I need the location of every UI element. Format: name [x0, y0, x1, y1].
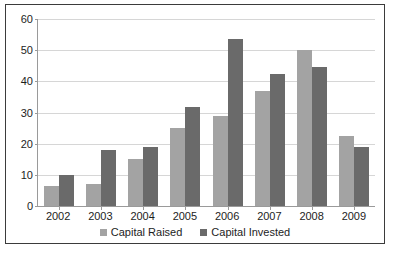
y-axis-tick-mark — [35, 206, 38, 207]
legend-swatch-icon — [200, 229, 207, 236]
bar-group — [80, 19, 122, 206]
legend-label: Capital Invested — [211, 227, 290, 238]
bar-group — [164, 19, 206, 206]
bar-group — [38, 19, 80, 206]
x-axis-tick-label: 2006 — [206, 211, 248, 222]
chart-legend: Capital RaisedCapital Invested — [6, 227, 384, 238]
chart-figure: 0102030405060 20022003200420052006200720… — [5, 4, 385, 244]
x-axis-tick-label: 2003 — [79, 211, 121, 222]
x-axis-tick-label: 2007 — [248, 211, 290, 222]
bar — [270, 74, 285, 206]
legend-swatch-icon — [100, 229, 107, 236]
x-axis-labels: 20022003200420052006200720082009 — [37, 211, 375, 222]
bar — [213, 116, 228, 206]
bar — [339, 136, 354, 206]
x-axis-tick-label: 2005 — [164, 211, 206, 222]
y-axis-tick-label: 30 — [21, 107, 33, 118]
bar-group — [207, 19, 249, 206]
x-axis-tick-label: 2009 — [333, 211, 375, 222]
bar — [185, 107, 200, 206]
y-axis-tick-label: 20 — [21, 138, 33, 149]
bar — [128, 159, 143, 206]
y-axis-tick-label: 40 — [21, 76, 33, 87]
y-axis-tick-label: 60 — [21, 14, 33, 25]
legend-label: Capital Raised — [111, 227, 183, 238]
bar-group — [291, 19, 333, 206]
bar-group — [122, 19, 164, 206]
bar — [255, 91, 270, 206]
x-axis-tick-label: 2008 — [291, 211, 333, 222]
bars-layer — [38, 19, 375, 206]
y-axis-tick-label: 10 — [21, 169, 33, 180]
legend-item: Capital Invested — [200, 227, 290, 238]
legend-item: Capital Raised — [100, 227, 183, 238]
bar — [86, 184, 101, 206]
y-axis-tick-label: 0 — [27, 201, 33, 212]
x-axis-tick-label: 2002 — [37, 211, 79, 222]
plot-area: 0102030405060 — [37, 19, 375, 207]
bar-group — [333, 19, 375, 206]
bar — [143, 147, 158, 206]
bar — [354, 147, 369, 206]
bar — [101, 150, 116, 206]
bar — [170, 128, 185, 206]
bar — [228, 39, 243, 206]
x-axis-tick-label: 2004 — [122, 211, 164, 222]
bar — [297, 50, 312, 206]
bar — [59, 175, 74, 206]
bar-group — [249, 19, 291, 206]
y-axis-tick-label: 50 — [21, 45, 33, 56]
bar — [312, 67, 327, 206]
bar — [44, 186, 59, 206]
